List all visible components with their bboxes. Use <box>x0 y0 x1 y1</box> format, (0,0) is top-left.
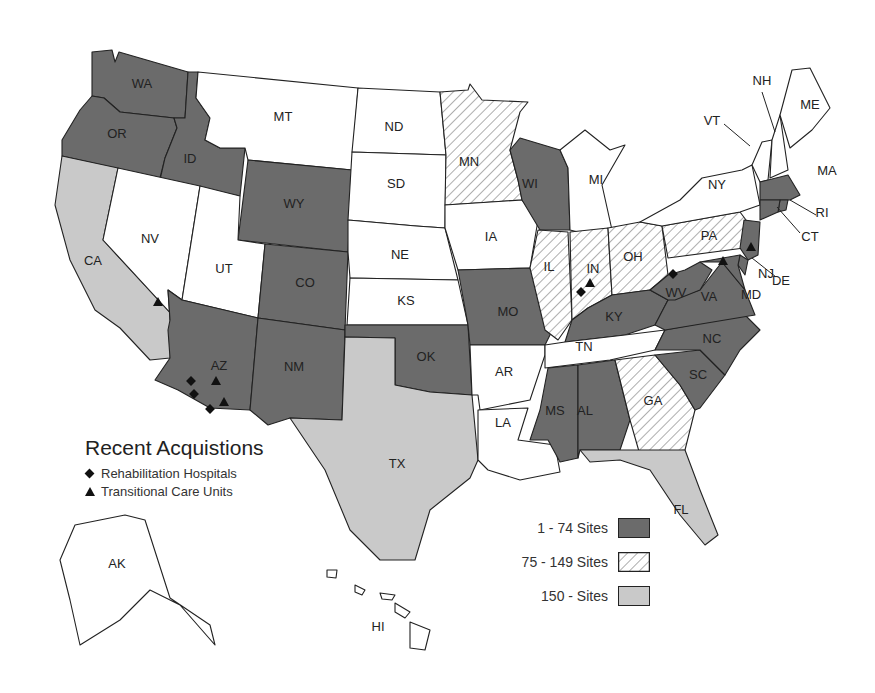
key-label-high: 150 - Sites <box>541 588 608 604</box>
legend-item-transitional: Transitional Care Units <box>85 484 233 499</box>
state-ct <box>760 200 780 220</box>
state-label-ut: UT <box>215 261 232 276</box>
state-ak <box>60 515 215 645</box>
key-item-mid: 75 - 149 Sites <box>522 552 650 572</box>
state-label-ct: CT <box>801 229 818 244</box>
state-label-nh: NH <box>753 73 772 88</box>
state-label-hi: HI <box>372 619 385 634</box>
state-label-wa: WA <box>132 76 153 91</box>
key-item-high: 150 - Sites <box>541 586 650 606</box>
state-hi <box>327 570 430 650</box>
legend-item-rehabilitation: Rehabilitation Hospitals <box>85 466 237 481</box>
state-label-ak: AK <box>108 556 126 571</box>
state-label-az: AZ <box>211 358 228 373</box>
state-label-ma: MA <box>817 163 837 178</box>
state-label-va: VA <box>701 289 718 304</box>
us-map: WAORIDMTWYCANVUTAZCONMNDSDNEKSOKTXMNIAMO… <box>0 0 875 693</box>
state-label-sd: SD <box>387 176 405 191</box>
state-label-wy: WY <box>284 196 305 211</box>
state-label-la: LA <box>495 415 511 430</box>
diamond-icon <box>85 469 95 479</box>
state-label-nd: ND <box>385 119 404 134</box>
key-label-low: 1 - 74 Sites <box>537 520 608 536</box>
state-label-wi: WI <box>522 176 538 191</box>
state-label-md: MD <box>741 287 761 302</box>
state-label-tx: TX <box>389 456 406 471</box>
state-label-nm: NM <box>284 359 304 374</box>
state-label-vt: VT <box>704 113 721 128</box>
legend-label-rehabilitation: Rehabilitation Hospitals <box>101 466 237 481</box>
state-label-ia: IA <box>485 229 498 244</box>
state-label-mi: MI <box>589 172 603 187</box>
state-label-nc: NC <box>703 331 722 346</box>
state-label-sc: SC <box>689 367 707 382</box>
key-swatch-high <box>618 586 650 606</box>
state-label-or: OR <box>107 126 127 141</box>
state-label-ar: AR <box>495 364 513 379</box>
key-swatch-low <box>618 518 650 538</box>
leader-vt <box>724 124 750 146</box>
state-label-me: ME <box>800 97 820 112</box>
state-label-al: AL <box>577 403 593 418</box>
legend-label-transitional: Transitional Care Units <box>101 484 233 499</box>
state-label-mn: MN <box>459 154 479 169</box>
state-label-fl: FL <box>673 502 688 517</box>
state-label-tn: TN <box>575 339 592 354</box>
state-label-ne: NE <box>391 247 409 262</box>
state-label-oh: OH <box>623 249 643 264</box>
state-label-pa: PA <box>701 228 718 243</box>
state-nj <box>740 220 760 260</box>
state-label-wv: WV <box>666 285 687 300</box>
state-label-ky: KY <box>605 309 623 324</box>
state-label-ga: GA <box>644 393 663 408</box>
leader-ct <box>777 207 800 233</box>
state-label-ms: MS <box>545 403 565 418</box>
key-label-mid: 75 - 149 Sites <box>522 554 608 570</box>
state-label-co: CO <box>295 275 315 290</box>
state-label-in: IN <box>587 261 600 276</box>
state-vt <box>752 140 772 182</box>
state-label-ca: CA <box>84 253 102 268</box>
state-label-de: DE <box>772 273 790 288</box>
state-label-id: ID <box>184 151 197 166</box>
state-label-ks: KS <box>397 293 415 308</box>
state-label-ny: NY <box>708 177 726 192</box>
state-label-il: IL <box>544 259 555 274</box>
leader-nh <box>762 92 775 132</box>
state-label-mo: MO <box>498 304 519 319</box>
key-item-low: 1 - 74 Sites <box>537 518 650 538</box>
state-label-ri: RI <box>816 205 829 220</box>
state-label-nv: NV <box>141 231 159 246</box>
states-layer <box>55 50 830 650</box>
leader-ri <box>790 200 816 215</box>
triangle-icon <box>85 487 95 497</box>
key-swatch-mid <box>618 552 650 572</box>
site-count-key: 1 - 74 Sites 75 - 149 Sites 150 - Sites <box>470 518 650 618</box>
legend-title: Recent Acquistions <box>85 436 264 460</box>
state-label-ok: OK <box>417 349 436 364</box>
state-label-mt: MT <box>274 109 293 124</box>
